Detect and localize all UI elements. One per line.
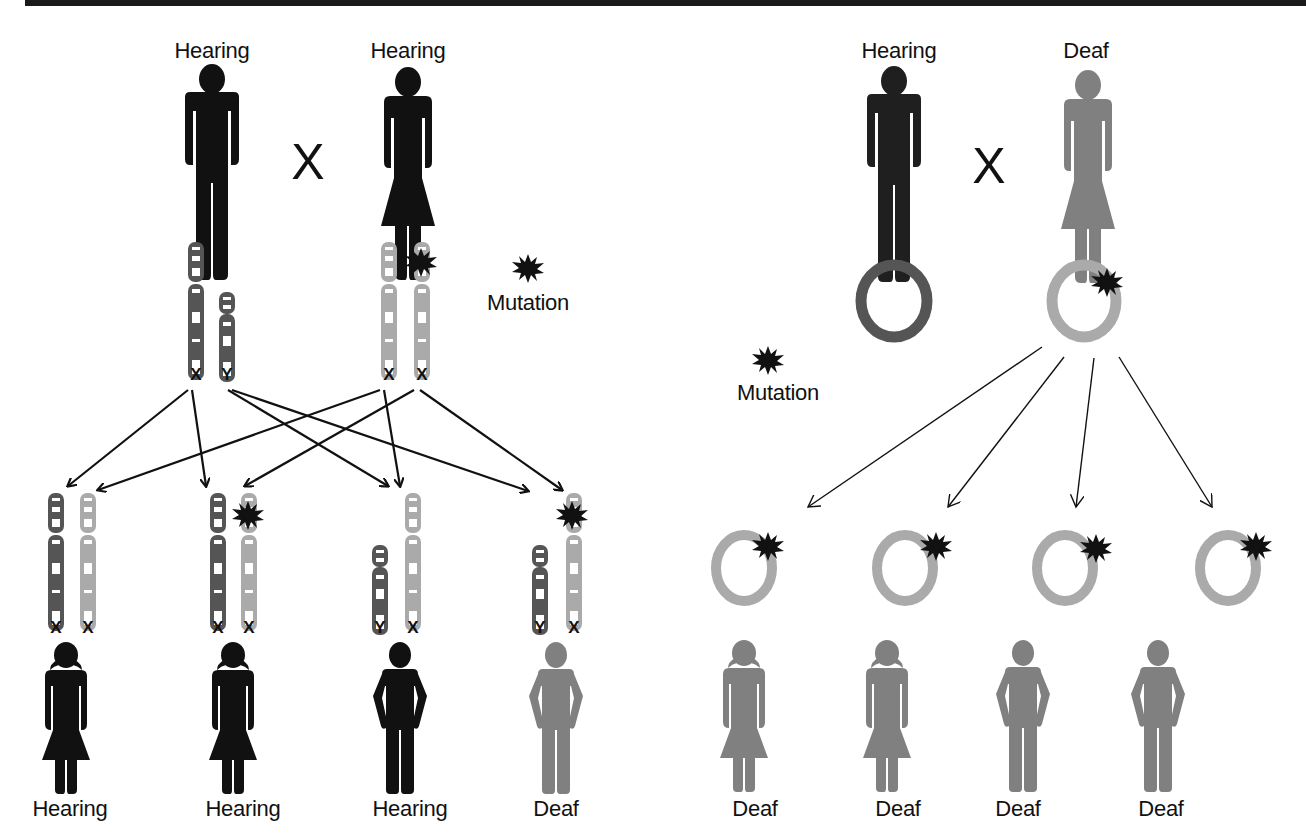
child2-girl-figure (209, 642, 257, 794)
mother-figure-right (1061, 70, 1115, 283)
child4-mutation-starburst-icon (556, 501, 588, 530)
child2-mutation-starburst-icon (232, 501, 264, 530)
mother-chr-label-x2: X (416, 365, 427, 385)
child3-x-maternal (405, 493, 421, 631)
child3-phenotype-label: Hearing (373, 796, 448, 822)
child1-girl-figure-right (720, 640, 768, 792)
child2-x-paternal (210, 493, 226, 631)
child4-chr-label-1: Y (534, 618, 545, 638)
mother-x-chromosome-1 (381, 242, 397, 380)
father-figure-right (867, 66, 921, 282)
child3-boy-figure (373, 642, 427, 794)
child1-x-maternal (80, 493, 96, 631)
child3-boy-figure-right (996, 640, 1050, 792)
inheritance-diagram (0, 0, 1306, 833)
inheritance-arrows-right (808, 347, 1212, 507)
father-phenotype-label: Hearing (175, 38, 250, 64)
child2-chr-label-2: X (243, 618, 254, 638)
legend-mutation-label-right: Mutation (737, 380, 819, 406)
child2-phenotype-label-right: Deaf (875, 796, 920, 822)
child4-phenotype-label: Deaf (533, 796, 578, 822)
father-chr-label-x: X (190, 365, 201, 385)
mother-chr-label-x1: X (383, 365, 394, 385)
father-x-chromosome (188, 242, 204, 380)
child4-boy-figure-right (1131, 640, 1185, 792)
child2-chr-label-1: X (212, 618, 223, 638)
mother-phenotype-label-right: Deaf (1063, 38, 1108, 64)
child1-chr-label-1: X (50, 618, 61, 638)
mother-phenotype-label: Hearing (371, 38, 446, 64)
child1-chr-label-2: X (82, 618, 93, 638)
child2-mitochondria-ring (877, 535, 933, 601)
child1-girl-figure (42, 642, 90, 794)
child1-x-paternal (48, 493, 64, 631)
legend-starburst-icon (512, 254, 544, 283)
child1-phenotype-label-right: Deaf (732, 796, 777, 822)
cross-symbol: X (291, 133, 324, 191)
child3-chr-label-1: Y (374, 618, 385, 638)
child3-phenotype-label-right: Deaf (995, 796, 1040, 822)
legend-starburst-icon-right (752, 346, 784, 375)
child3-chr-label-2: X (407, 618, 418, 638)
legend-mutation-label: Mutation (487, 290, 569, 316)
father-chr-label-y: Y (221, 365, 232, 385)
child4-boy-figure (529, 642, 583, 794)
child4-chr-label-2: X (568, 618, 579, 638)
inheritance-arrows (68, 390, 562, 491)
father-phenotype-label-right: Hearing (862, 38, 937, 64)
child4-phenotype-label-right: Deaf (1138, 796, 1183, 822)
cross-symbol-right: X (972, 137, 1005, 195)
child2-phenotype-label: Hearing (206, 796, 281, 822)
child1-phenotype-label: Hearing (33, 796, 108, 822)
father-mitochondria-ring (861, 265, 927, 337)
child2-girl-figure-right (863, 640, 911, 792)
